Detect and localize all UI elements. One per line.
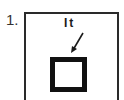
arrow-icon — [70, 32, 86, 54]
figure-label: It — [64, 16, 75, 30]
inner-square — [50, 57, 87, 92]
figure-number: 1. — [6, 12, 19, 28]
